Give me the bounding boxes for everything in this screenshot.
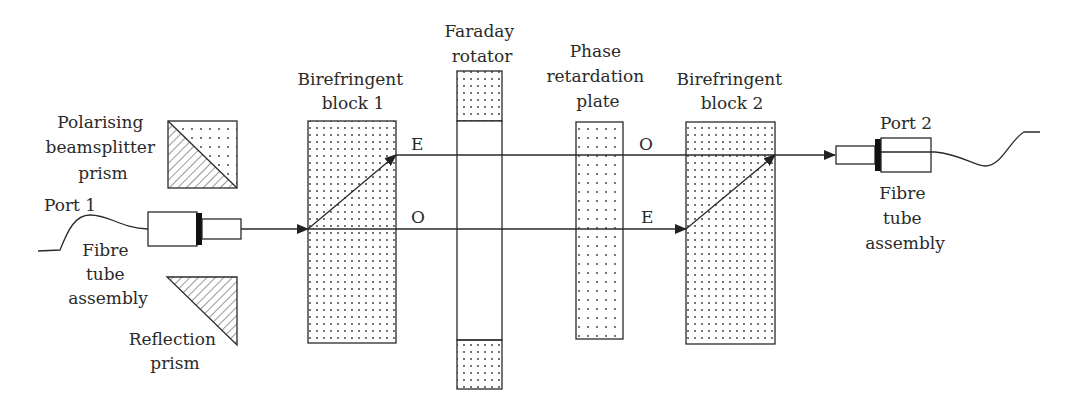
- faraday-crystal: [457, 121, 502, 340]
- fibre-tube-right: [881, 138, 931, 172]
- port1-label: Port 1: [44, 195, 96, 215]
- fibre-lens-left: [202, 219, 241, 239]
- port2-group: Port 2 Fibre tube assembly: [836, 113, 1040, 253]
- fibre-lens-right: [836, 146, 875, 164]
- phase-plate-label: Phase retardation plate: [546, 41, 649, 111]
- faraday-rotator: Faraday rotator: [444, 21, 519, 389]
- block1-label: Birefringent block 1: [297, 69, 408, 113]
- polarising-beamsplitter: Polarising beamsplitter prism: [46, 112, 237, 188]
- reflection-prism-label: Reflection prism: [129, 329, 222, 373]
- beam-label-o-left: O: [411, 207, 425, 227]
- block1-body: [308, 121, 396, 343]
- beam-label-o-right: O: [639, 134, 653, 154]
- faraday-label: Faraday rotator: [444, 21, 519, 66]
- beam-label-e-right: E: [641, 207, 653, 227]
- faraday-magnet-top: [457, 71, 502, 121]
- port2-label: Port 2: [880, 113, 932, 133]
- fibre-ferrule-left: [196, 213, 202, 245]
- beam-label-e-left: E: [411, 134, 423, 154]
- phase-retardation-plate: Phase retardation plate: [546, 41, 649, 339]
- fibre-ferrule-right: [875, 139, 881, 171]
- fibre-tube-right-label: Fibre tube assembly: [865, 183, 945, 253]
- block2-label: Birefringent block 2: [676, 69, 787, 113]
- birefringent-block-1: Birefringent block 1: [297, 69, 408, 343]
- faraday-magnet-bottom: [457, 340, 502, 389]
- birefringent-block-2: Birefringent block 2: [676, 69, 787, 344]
- diagram-canvas: Port 1 Fibre tube assembly Polarising be…: [0, 0, 1077, 412]
- fibre-tube-left-label: Fibre tube assembly: [68, 240, 148, 308]
- fibre-tube-left: [148, 212, 197, 246]
- pbs-label: Polarising beamsplitter prism: [46, 112, 161, 183]
